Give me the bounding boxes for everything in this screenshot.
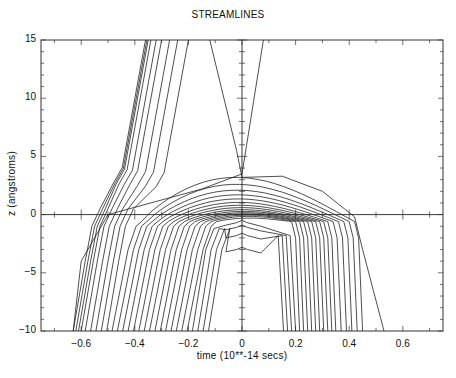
streamline-transmitted — [96, 40, 170, 331]
y-tick-label: 0 — [0, 208, 36, 219]
x-tick-label: −0.2 — [168, 338, 208, 349]
x-tick-label: 0.6 — [383, 338, 423, 349]
chart-title: STREAMLINES — [0, 9, 456, 20]
streamline-outermost — [210, 40, 384, 331]
y-tick-label: 5 — [0, 149, 36, 160]
x-axis-label: time (10**-14 secs) — [41, 350, 443, 361]
streamline-reflected — [203, 229, 288, 331]
streamlines-chart — [0, 0, 456, 378]
x-tick-label: 0.2 — [276, 338, 316, 349]
y-tick-label: −5 — [0, 266, 36, 277]
x-tick-label: 0.4 — [329, 338, 369, 349]
streamline-near-axis — [73, 40, 263, 331]
streamline-transmitted — [101, 40, 177, 331]
y-tick-label: 15 — [0, 33, 36, 44]
y-tick-label: −10 — [0, 324, 36, 335]
x-tick-label: −0.4 — [115, 338, 155, 349]
streamline-reflected — [160, 211, 319, 331]
streamline-transmitted — [73, 40, 145, 331]
streamline-reflected — [112, 177, 363, 331]
x-tick-label: 0 — [222, 338, 262, 349]
x-tick-label: −0.6 — [61, 338, 101, 349]
y-tick-label: 10 — [0, 91, 36, 102]
streamline-reflected — [209, 229, 284, 331]
